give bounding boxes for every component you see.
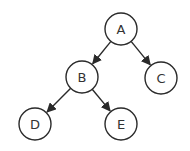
node-label: C (156, 71, 165, 86)
node-a: A (105, 13, 137, 45)
node-c: C (145, 62, 177, 94)
node-label: B (78, 70, 87, 85)
edge-a-c (131, 41, 150, 64)
node-label: E (117, 117, 125, 132)
edge-a-b (93, 41, 111, 63)
node-label: A (117, 22, 126, 37)
node-e: E (105, 108, 137, 140)
nodes-group: ABCDE (19, 13, 177, 140)
tree-diagram: ABCDE (0, 0, 190, 151)
edge-b-d (47, 88, 71, 112)
diagram-svg: ABCDE (0, 0, 190, 151)
node-label: D (30, 117, 40, 132)
node-d: D (19, 108, 51, 140)
node-b: B (66, 61, 98, 93)
edge-b-e (92, 89, 110, 111)
